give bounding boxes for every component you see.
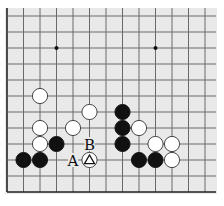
white-stone[interactable] (32, 88, 47, 103)
white-stone[interactable] (164, 136, 179, 151)
point-label-b: B (84, 136, 95, 154)
point-label-a: A (67, 152, 79, 170)
star-point (154, 46, 158, 50)
black-stone[interactable] (16, 152, 31, 167)
white-stone[interactable] (32, 136, 47, 151)
go-board[interactable]: BA (0, 0, 224, 206)
black-stone[interactable] (115, 104, 130, 119)
white-stone[interactable] (32, 120, 47, 135)
white-stone[interactable] (148, 136, 163, 151)
black-stone[interactable] (115, 120, 130, 135)
white-stone[interactable] (131, 120, 146, 135)
black-stone[interactable] (49, 136, 64, 151)
black-stone[interactable] (131, 152, 146, 167)
black-stone[interactable] (115, 136, 130, 151)
black-stone[interactable] (148, 152, 163, 167)
star-point (55, 46, 59, 50)
white-stone[interactable] (82, 152, 97, 167)
white-stone[interactable] (65, 120, 80, 135)
white-stone[interactable] (82, 104, 97, 119)
black-stone[interactable] (32, 152, 47, 167)
white-stone[interactable] (164, 152, 179, 167)
